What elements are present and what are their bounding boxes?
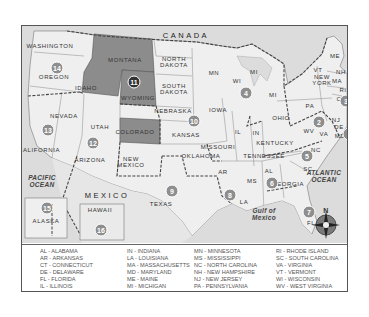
state-label: OKLAHOMA <box>182 153 221 159</box>
pacific-ocean-label: PACIFIC OCEAN <box>28 175 56 188</box>
state-label: DE <box>334 124 344 130</box>
legend-entry: NH - NEW HAMPSHIRE <box>194 269 257 276</box>
legend-entry: MI - MICHIGAN <box>127 283 190 290</box>
region-number-badge: 16 <box>95 224 108 237</box>
state-label: HAWAII <box>88 207 113 213</box>
state-label: COLORADO <box>115 129 154 135</box>
state-label: KENTUCKY <box>256 140 293 146</box>
region-number-badge: 2 <box>313 116 326 129</box>
state-label: NEBRASKA <box>154 108 191 114</box>
state-label: NEVADA <box>50 113 78 119</box>
state-abbreviation-legend: AL - ALABAMAAR - ARKANSASCT - CONNECTICU… <box>22 244 347 292</box>
state-label: RI <box>339 87 346 93</box>
legend-entry: RI - RHODE ISLAND <box>276 248 338 255</box>
state-label: FL <box>307 220 315 226</box>
state-label: IOWA <box>209 107 227 113</box>
state-label: PA <box>306 103 315 109</box>
region-number-badge: 8 <box>224 189 237 202</box>
legend-entry: FL - FLORIDA <box>40 276 93 283</box>
state-label: NEW MEXICO <box>117 156 144 168</box>
state-label: MS <box>247 178 257 184</box>
legend-entry: CT - CONNECTICUT <box>40 262 93 269</box>
state-label: AL <box>265 168 274 174</box>
legend-column-1: AL - ALABAMAAR - ARKANSASCT - CONNECTICU… <box>40 248 93 290</box>
state-label: WV <box>304 128 315 134</box>
state-label: MISSOURI <box>201 144 235 150</box>
region-number-badge: 12 <box>87 137 100 150</box>
region-number-badge: 10 <box>188 115 201 128</box>
region-number-badge: 14 <box>51 62 64 75</box>
map-frame: CANADA MEXICO PACIFIC OCEAN ATLANTIC OCE… <box>21 25 348 292</box>
region-number-badge: 15 <box>41 202 54 215</box>
legend-entry: PA - PENNSYLVANIA <box>194 283 257 290</box>
state-label: MN <box>209 70 220 76</box>
region-number-badge: 4 <box>240 87 253 100</box>
legend-column-2: IN - INDIANALA - LOUISIANAMA - MASSACHUS… <box>127 248 190 290</box>
state-label: WYOMING <box>121 95 155 101</box>
state-label: MI <box>269 92 277 98</box>
state-label: NJ <box>332 117 341 123</box>
legend-entry: WV - WEST VIRGINIA <box>276 283 338 290</box>
state-label: KANSAS <box>172 132 200 138</box>
state-label: IDAHO <box>75 85 97 91</box>
state-label: MONTANA <box>108 57 142 63</box>
legend-entry: VT - VERMONT <box>276 269 338 276</box>
region-number-badge: 9 <box>166 185 179 198</box>
state-label: ME <box>330 53 340 59</box>
legend-entry: DE - DELAWARE <box>40 269 93 276</box>
region-number-badge: 7 <box>303 206 316 219</box>
canada-label: CANADA <box>163 32 209 40</box>
state-label: NH <box>336 69 346 75</box>
legend-entry: VA - VIRGINIA <box>276 262 338 269</box>
legend-entry: NC - NORTH CAROLINA <box>194 262 257 269</box>
state-label: TENNESSEE <box>243 153 285 159</box>
state-label: MI <box>250 69 258 75</box>
state-label: UTAH <box>91 124 109 130</box>
region-number-badge: 13 <box>42 124 55 137</box>
legend-entry: IN - INDIANA <box>127 248 190 255</box>
legend-entry: ME - MAINE <box>127 276 190 283</box>
legend-entry: MD - MARYLAND <box>127 269 190 276</box>
state-label: NEW YORK <box>312 74 331 86</box>
legend-column-3: MN - MINNESOTAMS - MISSISSIPPINC - NORTH… <box>194 248 257 290</box>
state-label: IL <box>235 129 241 135</box>
region-number-badge: 6 <box>266 177 279 190</box>
legend-entry: LA - LOUISIANA <box>127 255 190 262</box>
state-label: SC <box>303 166 313 172</box>
legend-entry: MN - MINNESOTA <box>194 248 257 255</box>
legend-column-4: RI - RHODE ISLANDSC - SOUTH CAROLINAVA -… <box>276 248 338 290</box>
state-label: MA <box>332 78 342 84</box>
state-label: OREGON <box>39 74 69 80</box>
state-label: TEXAS <box>150 201 173 207</box>
state-label: WI <box>233 78 242 84</box>
state-label: LA <box>240 199 249 205</box>
state-label: AR <box>218 169 228 175</box>
state-label: ARIZONA <box>75 157 106 163</box>
state-label: NORTH DAKOTA <box>160 56 188 68</box>
state-label: WASHINGTON <box>26 43 73 49</box>
state-label: VA <box>320 131 329 137</box>
state-label: ALASKA <box>33 218 60 224</box>
compass-north-label: N <box>323 207 329 214</box>
state-label: OHIO <box>272 115 290 121</box>
compass-rose <box>312 211 340 239</box>
legend-entry: NJ - NEW JERSEY <box>194 276 257 283</box>
state-label: SOUTH DAKOTA <box>160 83 188 95</box>
legend-entry: AR - ARKANSAS <box>40 255 93 262</box>
legend-entry: AL - ALABAMA <box>40 248 93 255</box>
legend-entry: SC - SOUTH CAROLINA <box>276 255 338 262</box>
gulf-of-mexico-label: Gulf of Mexico <box>252 208 276 221</box>
us-regions-map: CANADA MEXICO PACIFIC OCEAN ATLANTIC OCE… <box>22 26 347 243</box>
region-number-badge: 11 <box>128 76 141 89</box>
legend-entry: MS - MISSISSIPPI <box>194 255 257 262</box>
mexico-label: MEXICO <box>85 192 130 200</box>
legend-entry: MA - MASSACHUSETTS <box>127 262 190 269</box>
region-number-badge: 3 <box>340 95 348 108</box>
legend-entry: IL - ILLINOIS <box>40 283 93 290</box>
state-label: IN <box>252 130 259 136</box>
state-label: CALIFORNIA <box>22 147 60 153</box>
legend-entry: WI - WISCONSIN <box>276 276 338 283</box>
region-number-badge: 5 <box>301 150 314 163</box>
state-label: VT <box>314 67 323 73</box>
